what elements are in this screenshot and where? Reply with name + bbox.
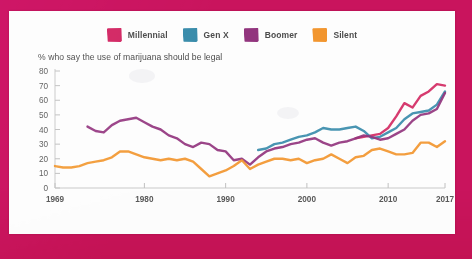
chart-plot-area: 01020304050607080 1969198019902000201020… [9, 63, 455, 223]
y-tick-label: 10 [39, 169, 49, 178]
y-tick-label: 80 [39, 67, 49, 76]
y-tick-label: 20 [39, 155, 49, 164]
x-axis: 196919801990200020102017 [46, 183, 455, 204]
legend-label-boomer: Boomer [265, 30, 298, 40]
x-tick-label: 2017 [436, 195, 455, 204]
y-tick-label: 60 [39, 96, 49, 105]
legend-item-silent[interactable]: Silent [312, 28, 357, 42]
chart-card: Millennial Gen X Boomer Silent % who say… [9, 11, 455, 234]
legend-label-genx: Gen X [204, 30, 229, 40]
y-tick-label: 50 [39, 111, 49, 120]
legend-swatch-genx [183, 28, 198, 42]
series-line-silent [55, 141, 445, 176]
legend-label-silent: Silent [333, 30, 357, 40]
y-tick-label: 40 [39, 126, 49, 135]
legend-swatch-millennial [107, 28, 122, 42]
y-tick-label: 70 [39, 82, 49, 91]
legend-item-genx[interactable]: Gen X [183, 28, 229, 42]
legend-item-millennial[interactable]: Millennial [107, 28, 168, 42]
y-axis: 01020304050607080 [39, 67, 60, 193]
legend-item-boomer[interactable]: Boomer [244, 28, 298, 42]
chart-subtitle: % who say the use of marijuana should be… [38, 52, 222, 62]
y-tick-label: 30 [39, 140, 49, 149]
line-chart-svg: 01020304050607080 1969198019902000201020… [9, 63, 455, 223]
x-tick-label: 1969 [46, 195, 65, 204]
series-group [55, 84, 445, 176]
x-tick-label: 2000 [298, 195, 317, 204]
x-tick-label: 1990 [217, 195, 236, 204]
legend-swatch-boomer [244, 28, 259, 42]
legend-swatch-silent [312, 28, 327, 42]
x-tick-label: 1980 [135, 195, 154, 204]
chart-legend: Millennial Gen X Boomer Silent [9, 28, 455, 42]
y-tick-label: 0 [43, 184, 48, 193]
legend-label-millennial: Millennial [128, 30, 168, 40]
x-tick-label: 2010 [379, 195, 398, 204]
poster-background: Millennial Gen X Boomer Silent % who say… [0, 0, 472, 259]
